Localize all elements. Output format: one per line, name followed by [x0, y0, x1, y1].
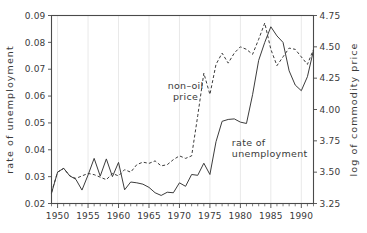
y-axis-tick-label: 0.07 — [25, 64, 46, 74]
x-axis-tick-label: 1980 — [229, 211, 253, 221]
chart-figure: 0.020.030.040.050.060.070.080.093.253.50… — [0, 0, 367, 233]
annotation-non-oil-price-line1: non–oil — [168, 80, 204, 91]
chart-canvas: 0.020.030.040.050.060.070.080.093.253.50… — [0, 0, 367, 233]
plot-frame — [52, 16, 314, 204]
x-axis-tick-label: 1970 — [168, 211, 192, 221]
y2-axis-tick-label: 4.00 — [320, 105, 341, 115]
y-axis-tick-label: 0.08 — [25, 38, 46, 48]
y2-axis-tick-label: 4.25 — [320, 73, 341, 83]
right-axis-title: log of commodity price — [348, 43, 359, 177]
left-axis-title: rate of unemployment — [4, 45, 15, 174]
y-axis-tick-label: 0.02 — [25, 199, 46, 209]
x-axis-tick-label: 1985 — [259, 211, 283, 221]
y-axis-tick-label: 0.03 — [25, 172, 46, 182]
y2-axis-tick-label: 3.75 — [320, 136, 341, 146]
y2-axis-tick-label: 4.50 — [320, 42, 341, 52]
y2-axis-tick-label: 3.25 — [320, 199, 341, 209]
y-axis-tick-label: 0.06 — [25, 91, 46, 101]
annotation-unemployment-rate-line1: rate of — [232, 137, 266, 148]
x-axis-tick-label: 1960 — [107, 211, 131, 221]
x-axis-tick-label: 1965 — [137, 211, 161, 221]
y-axis-tick-label: 0.05 — [25, 118, 46, 128]
annotation-non-oil-price-line2: price — [173, 91, 198, 102]
annotation-unemployment-rate-line2: unemployment — [232, 148, 308, 159]
y-axis-tick-label: 0.09 — [25, 11, 46, 21]
x-axis-tick-label: 1950 — [46, 211, 70, 221]
series-line-unemployment-rate — [52, 27, 314, 196]
x-axis-tick-label: 1975 — [198, 211, 222, 221]
y-axis-tick-label: 0.04 — [25, 145, 46, 155]
y2-axis-tick-label: 4.75 — [320, 11, 341, 21]
x-axis-tick-label: 1990 — [289, 211, 313, 221]
x-axis-tick-label: 1955 — [76, 211, 100, 221]
y2-axis-tick-label: 3.50 — [320, 167, 341, 177]
